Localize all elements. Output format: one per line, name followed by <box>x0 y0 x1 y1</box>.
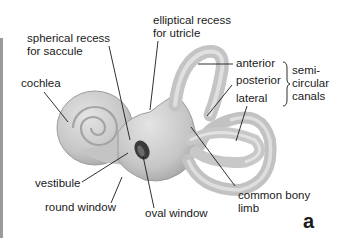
label-line: for utricle <box>153 27 231 40</box>
label-round-window: round window <box>45 201 116 214</box>
label-line: for saccule <box>27 45 110 58</box>
label-line: spherical recess <box>27 32 110 45</box>
label-line: circular <box>292 77 329 90</box>
label-line: canals <box>292 90 329 103</box>
semicircular-brace <box>283 62 290 106</box>
label-posterior: posterior <box>236 74 281 87</box>
label-common-bony-limb: common bony limb <box>238 189 310 215</box>
label-elliptical-recess: elliptical recess for utricle <box>153 14 231 40</box>
label-line: semi- <box>292 64 329 77</box>
label-vestibule: vestibule <box>35 177 80 190</box>
label-oval-window: oval window <box>145 207 208 220</box>
label-lateral: lateral <box>236 92 267 105</box>
label-line: common bony <box>238 189 310 202</box>
panel-letter: a <box>303 210 314 233</box>
label-line: elliptical recess <box>153 14 231 27</box>
label-semicircular-canals: semi- circular canals <box>292 64 329 103</box>
label-cochlea: cochlea <box>21 77 61 90</box>
label-line: limb <box>238 202 310 215</box>
label-anterior: anterior <box>236 57 275 70</box>
label-spherical-recess: spherical recess for saccule <box>27 32 110 58</box>
